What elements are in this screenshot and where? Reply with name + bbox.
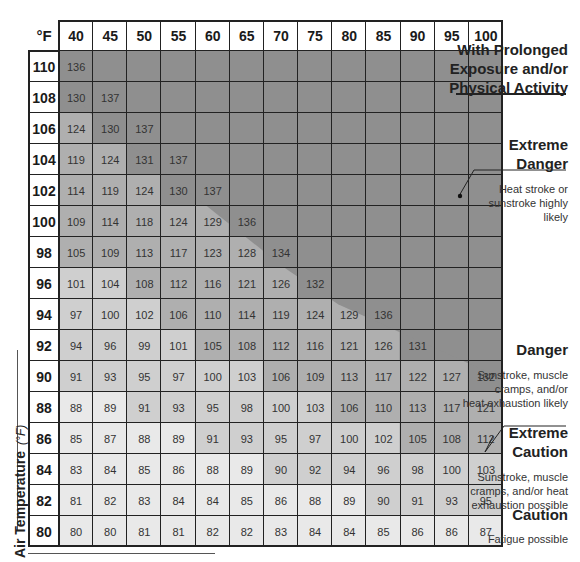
leader-extreme-danger	[459, 170, 566, 196]
legend-leader-lines	[0, 0, 580, 562]
leader-dot-extreme-danger	[458, 194, 462, 198]
heat-index-chart: °F 4045505560657075808590951001101361081…	[0, 0, 580, 562]
leader-danger	[485, 426, 566, 452]
